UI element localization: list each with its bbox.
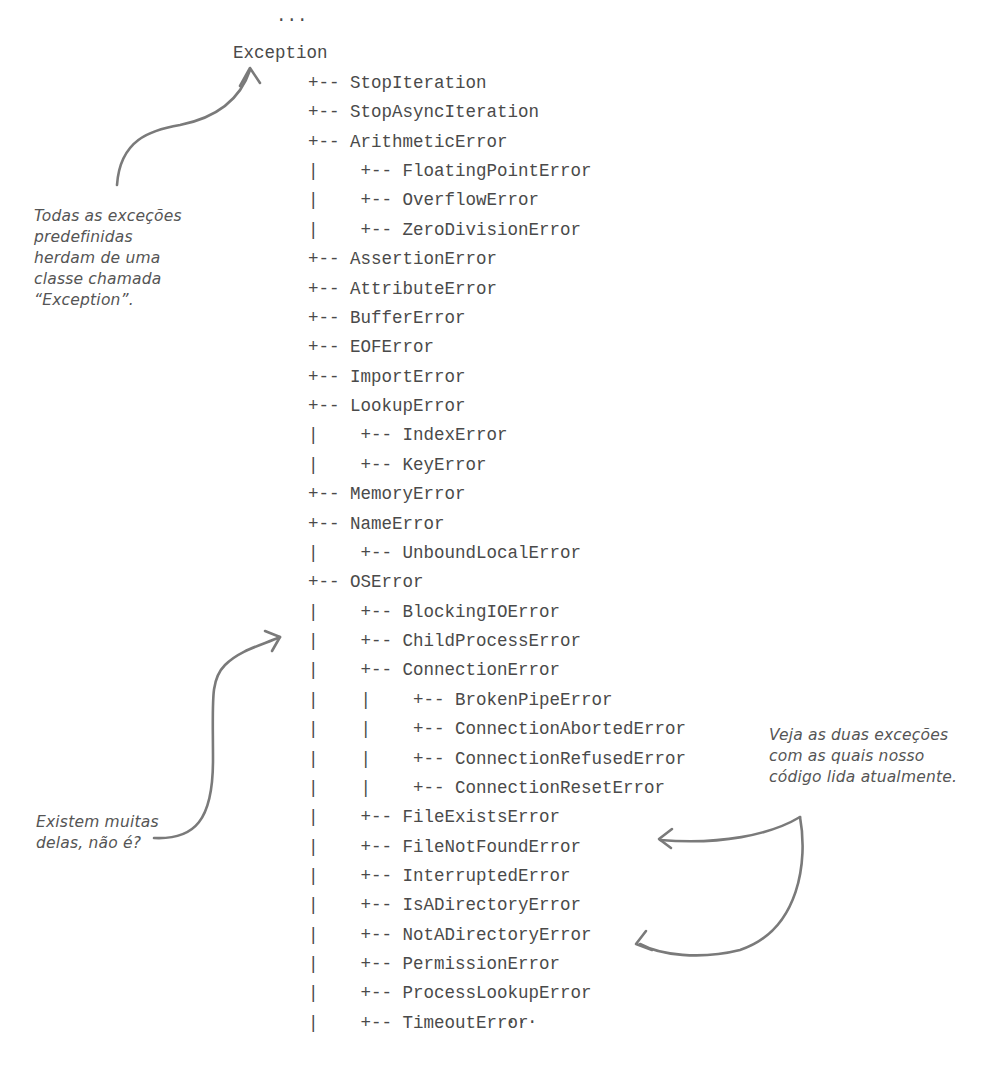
tree-connector: +-- bbox=[308, 367, 350, 387]
bottom-ellipsis: ... bbox=[506, 1008, 538, 1028]
exception-class-name: FileExistsError bbox=[403, 807, 561, 827]
hierarchy-line: | +-- PermissionError bbox=[308, 954, 560, 974]
exception-class-name: InterruptedError bbox=[403, 866, 571, 886]
exception-class-name: FloatingPointError bbox=[403, 161, 592, 181]
hierarchy-line: +-- BufferError bbox=[308, 308, 466, 328]
hierarchy-line: | +-- ChildProcessError bbox=[308, 631, 581, 651]
tree-connector: | +-- bbox=[308, 807, 403, 827]
exception-class-name: AssertionError bbox=[350, 249, 497, 269]
exception-class-name: IndexError bbox=[403, 425, 508, 445]
exception-class-name: ConnectionAbortedError bbox=[455, 719, 686, 739]
exception-class-name: EOFError bbox=[350, 337, 434, 357]
tree-connector: | +-- bbox=[308, 954, 403, 974]
tree-connector: +-- bbox=[308, 484, 350, 504]
exception-class-name: FileNotFoundError bbox=[403, 837, 582, 857]
tree-connector: | +-- bbox=[308, 837, 403, 857]
tree-connector: +-- bbox=[308, 308, 350, 328]
exception-class-name: MemoryError bbox=[350, 484, 466, 504]
exception-class-name: ConnectionError bbox=[403, 660, 561, 680]
hierarchy-line: +-- NameError bbox=[308, 514, 445, 534]
tree-connector: +-- bbox=[308, 249, 350, 269]
hierarchy-line: | +-- IsADirectoryError bbox=[308, 895, 581, 915]
tree-connector: | | +-- bbox=[308, 778, 455, 798]
exception-class-name: ArithmeticError bbox=[350, 132, 508, 152]
hierarchy-line: | +-- FileExistsError bbox=[308, 807, 560, 827]
hierarchy-line: | | +-- ConnectionRefusedError bbox=[308, 749, 686, 769]
exception-class-name: BlockingIOError bbox=[403, 602, 561, 622]
tree-connector: +-- bbox=[308, 102, 350, 122]
tree-connector: | +-- bbox=[308, 866, 403, 886]
hierarchy-line: | +-- BlockingIOError bbox=[308, 602, 560, 622]
hierarchy-line: | +-- ProcessLookupError bbox=[308, 983, 592, 1003]
tree-connector: | +-- bbox=[308, 602, 403, 622]
hierarchy-line: +-- OSError bbox=[308, 572, 424, 592]
hierarchy-line: +-- MemoryError bbox=[308, 484, 466, 504]
tree-connector: | +-- bbox=[308, 895, 403, 915]
annotation-many-exceptions: Existem muitas delas, não é? bbox=[36, 812, 159, 854]
exception-class-name: ImportError bbox=[350, 367, 466, 387]
hierarchy-line: | +-- OverflowError bbox=[308, 190, 539, 210]
exception-class-name: BrokenPipeError bbox=[455, 690, 613, 710]
exception-class-name: ProcessLookupError bbox=[403, 983, 592, 1003]
exception-class-name: NotADirectoryError bbox=[403, 925, 592, 945]
hierarchy-line: +-- StopAsyncIteration bbox=[308, 102, 539, 122]
annotation-two-handled: Veja as duas exceções com as quais nosso… bbox=[769, 725, 957, 788]
hierarchy-line: | +-- ZeroDivisionError bbox=[308, 220, 581, 240]
hierarchy-line: +-- StopIteration bbox=[308, 73, 487, 93]
annotation-exception-base: Todas as exceções predefinidas herdam de… bbox=[34, 206, 182, 311]
tree-connector: | +-- bbox=[308, 455, 403, 475]
tree-connector: | +-- bbox=[308, 1013, 403, 1033]
exception-class-name: NameError bbox=[350, 514, 445, 534]
hierarchy-line: +-- AttributeError bbox=[308, 279, 497, 299]
tree-connector: | +-- bbox=[308, 220, 403, 240]
hierarchy-line: | +-- InterruptedError bbox=[308, 866, 571, 886]
hierarchy-line: | +-- KeyError bbox=[308, 455, 487, 475]
tree-connector: | +-- bbox=[308, 190, 403, 210]
exception-hierarchy: ... Exception +-- StopIteration+-- StopA… bbox=[0, 0, 999, 1080]
tree-connector: | +-- bbox=[308, 543, 403, 563]
hierarchy-line: | +-- ConnectionError bbox=[308, 660, 560, 680]
hierarchy-line: | +-- TimeoutError bbox=[308, 1013, 529, 1033]
tree-connector: +-- bbox=[308, 572, 350, 592]
hierarchy-line: | +-- FloatingPointError bbox=[308, 161, 592, 181]
hierarchy-line: | +-- IndexError bbox=[308, 425, 508, 445]
exception-class-name: IsADirectoryError bbox=[403, 895, 582, 915]
exception-class-name: ConnectionRefusedError bbox=[455, 749, 686, 769]
hierarchy-line: +-- LookupError bbox=[308, 396, 466, 416]
tree-connector: +-- bbox=[308, 337, 350, 357]
tree-connector: +-- bbox=[308, 514, 350, 534]
hierarchy-line: +-- EOFError bbox=[308, 337, 434, 357]
tree-connector: | +-- bbox=[308, 925, 403, 945]
hierarchy-line: +-- ImportError bbox=[308, 367, 466, 387]
tree-connector: | +-- bbox=[308, 983, 403, 1003]
exception-class-name: OSError bbox=[350, 572, 424, 592]
root-exception: Exception bbox=[233, 43, 328, 63]
tree-connector: | +-- bbox=[308, 425, 403, 445]
tree-connector: +-- bbox=[308, 132, 350, 152]
exception-class-name: UnboundLocalError bbox=[403, 543, 582, 563]
exception-class-name: BufferError bbox=[350, 308, 466, 328]
exception-class-name: KeyError bbox=[403, 455, 487, 475]
top-ellipsis: ... bbox=[276, 6, 308, 26]
hierarchy-line: | | +-- ConnectionAbortedError bbox=[308, 719, 686, 739]
tree-connector: | | +-- bbox=[308, 690, 455, 710]
exception-class-name: LookupError bbox=[350, 396, 466, 416]
hierarchy-line: | +-- UnboundLocalError bbox=[308, 543, 581, 563]
tree-connector: | | +-- bbox=[308, 719, 455, 739]
hierarchy-line: | | +-- ConnectionResetError bbox=[308, 778, 665, 798]
tree-connector: | +-- bbox=[308, 631, 403, 651]
tree-connector: | | +-- bbox=[308, 749, 455, 769]
exception-class-name: AttributeError bbox=[350, 279, 497, 299]
hierarchy-line: | +-- FileNotFoundError bbox=[308, 837, 581, 857]
exception-class-name: ConnectionResetError bbox=[455, 778, 665, 798]
tree-connector: +-- bbox=[308, 279, 350, 299]
hierarchy-line: | | +-- BrokenPipeError bbox=[308, 690, 613, 710]
exception-class-name: StopIteration bbox=[350, 73, 487, 93]
tree-connector: | +-- bbox=[308, 161, 403, 181]
exception-class-name: StopAsyncIteration bbox=[350, 102, 539, 122]
tree-connector: | +-- bbox=[308, 660, 403, 680]
exception-class-name: OverflowError bbox=[403, 190, 540, 210]
exception-class-name: PermissionError bbox=[403, 954, 561, 974]
hierarchy-line: +-- ArithmeticError bbox=[308, 132, 508, 152]
tree-connector: +-- bbox=[308, 73, 350, 93]
